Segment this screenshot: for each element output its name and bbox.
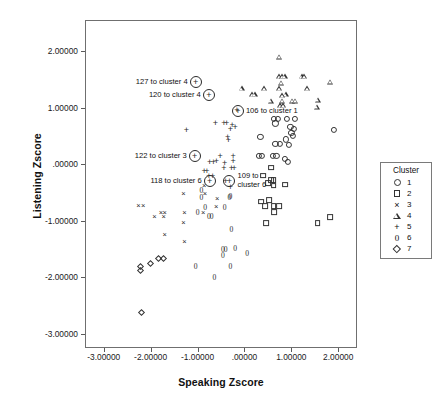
marker-plus: + (227, 177, 232, 186)
marker-x: × (182, 209, 186, 217)
legend-entries: 12×34+5067 (381, 177, 431, 254)
x-axis-title: Speaking Zscore (85, 376, 357, 388)
marker-x: × (182, 238, 186, 246)
marker-plus: + (231, 163, 236, 172)
point-annotation: 118 to cluster 6 (150, 177, 201, 186)
marker-plus: + (213, 119, 218, 128)
marker-x: × (152, 214, 156, 222)
legend-label: 6 (407, 233, 411, 242)
marker-triangle (292, 98, 298, 103)
y-tick-label: 1.00000 (18, 103, 78, 113)
marker-plus: + (211, 157, 216, 166)
legend-zero-icon: 0 (390, 232, 404, 243)
y-tick-label: -1.00000 (18, 216, 78, 226)
legend-item-5: +5 (381, 221, 431, 232)
marker-triangle (315, 97, 321, 102)
marker-plus: + (184, 126, 189, 135)
marker-square (282, 182, 288, 188)
marker-plus: + (226, 136, 231, 145)
marker-plus: + (193, 77, 198, 86)
marker-zero: 0 (223, 205, 227, 213)
y-tick (81, 277, 85, 278)
y-tick-label: 2.00000 (18, 46, 78, 56)
legend-item-1: 1 (381, 177, 431, 188)
marker-plus: + (232, 122, 237, 131)
marker-x: × (214, 203, 218, 211)
legend-label: 7 (407, 244, 411, 253)
point-annotation: 106 to cluster 1 (246, 107, 298, 116)
legend-item-3: ×3 (381, 199, 431, 210)
marker-square (315, 220, 321, 226)
marker-plus: + (206, 91, 211, 100)
marker-zero: 0 (210, 214, 214, 222)
marker-x: × (181, 219, 185, 227)
y-tick-label: .00000 (18, 159, 78, 169)
legend-label: 3 (407, 200, 411, 209)
marker-zero: 0 (228, 194, 232, 202)
legend-title: Cluster (381, 166, 431, 175)
marker-x: × (163, 232, 167, 240)
legend-plus-icon: + (390, 221, 404, 232)
marker-zero: 0 (199, 194, 203, 202)
marker-square (272, 209, 278, 215)
legend-triangle-icon (390, 210, 404, 221)
y-tick-label: -2.00000 (18, 272, 78, 282)
marker-square (271, 183, 277, 189)
marker-plus: + (235, 107, 240, 116)
marker-triangle (268, 98, 274, 103)
marker-zero: 0 (196, 209, 200, 217)
y-axis-title: Listening Zscore (31, 96, 43, 256)
legend-x-icon: × (390, 199, 404, 210)
x-tick-label: 1.00000 (276, 352, 306, 362)
marker-triangle (252, 92, 258, 97)
marker-triangle (276, 86, 282, 91)
marker-x: × (141, 202, 145, 210)
legend-circle-icon (390, 177, 404, 188)
y-tick (81, 221, 85, 222)
marker-triangle (301, 73, 307, 78)
x-tick-label: -2.00000 (134, 352, 167, 362)
marker-zero: 0 (194, 263, 198, 271)
point-annotation: 109 to cluster 6 (237, 172, 266, 190)
marker-zero: 0 (203, 205, 207, 213)
point-annotation: 120 to cluster 4 (149, 91, 201, 100)
legend-item-4: 4 (381, 210, 431, 221)
legend-item-7: 7 (381, 243, 431, 254)
plot-area (85, 20, 357, 348)
x-tick-label: -3.00000 (87, 352, 120, 362)
marker-square (276, 203, 282, 209)
marker-triangle (282, 73, 288, 78)
y-tick-label: -3.00000 (18, 329, 78, 339)
marker-square (262, 203, 268, 209)
y-tick (81, 164, 85, 165)
legend-square-icon (390, 188, 404, 199)
marker-zero: 0 (221, 252, 225, 260)
marker-triangle (314, 104, 320, 109)
legend-label: 2 (407, 189, 411, 198)
legend-label: 4 (407, 211, 411, 220)
legend: Cluster 12×34+5067 (380, 162, 432, 259)
marker-plus: + (207, 177, 212, 186)
y-tick (81, 108, 85, 109)
marker-x: × (203, 190, 207, 198)
x-tick-label: -1.00000 (181, 352, 214, 362)
x-tick-label: .00000 (232, 352, 258, 362)
y-tick (81, 334, 85, 335)
marker-triangle (327, 79, 333, 84)
y-tick (81, 51, 85, 52)
marker-triangle (304, 86, 310, 91)
marker-square (268, 165, 274, 171)
legend-item-6: 06 (381, 232, 431, 243)
marker-square (263, 220, 269, 226)
marker-triangle (261, 86, 267, 91)
marker-zero: 0 (233, 245, 237, 253)
marker-zero: 0 (229, 226, 233, 234)
marker-zero: 0 (213, 275, 217, 283)
legend-label: 1 (407, 178, 411, 187)
marker-square (327, 214, 333, 220)
legend-item-2: 2 (381, 188, 431, 199)
x-tick-label: 2.00000 (323, 352, 353, 362)
marker-triangle (278, 80, 284, 85)
legend-label: 5 (407, 222, 411, 231)
marker-zero: 0 (245, 250, 249, 258)
